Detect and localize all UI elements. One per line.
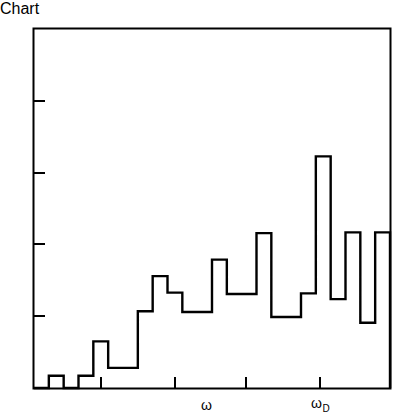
omega-subscript-d: D [322,403,330,414]
chart-plot-area [0,18,408,416]
plot-frame [34,29,391,389]
chart-figure: Z (ω) ω ωD [0,18,408,416]
x-axis-label-omega-debye: ωD [311,395,330,414]
omega-glyph: ω [311,395,322,411]
x-axis-label-omega: ω [201,397,212,413]
